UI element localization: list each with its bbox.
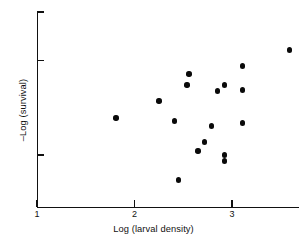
x-axis-title: Log (larval density) bbox=[0, 224, 307, 234]
data-point bbox=[202, 139, 207, 144]
data-point bbox=[222, 158, 227, 163]
x-tick-label-2: 3 bbox=[229, 210, 234, 219]
data-point bbox=[287, 47, 292, 52]
plot-area bbox=[37, 12, 299, 207]
y-axis-title: –Log (survival) bbox=[16, 30, 30, 190]
data-point bbox=[222, 82, 227, 87]
data-point bbox=[215, 88, 220, 93]
data-point bbox=[222, 152, 227, 157]
scatter-plot-figure: 123 Log (larval density) –Log (survival) bbox=[0, 0, 307, 249]
data-point bbox=[195, 148, 200, 153]
data-point bbox=[156, 98, 161, 103]
data-point bbox=[186, 71, 191, 76]
data-point bbox=[184, 82, 189, 87]
data-point bbox=[240, 120, 245, 125]
data-point bbox=[209, 123, 214, 128]
data-point bbox=[113, 115, 118, 120]
x-tick-label-0: 1 bbox=[34, 210, 39, 219]
data-point bbox=[176, 177, 181, 182]
data-point bbox=[172, 118, 177, 123]
x-tick-label-1: 2 bbox=[132, 210, 137, 219]
data-point bbox=[240, 63, 245, 68]
data-point bbox=[240, 87, 245, 92]
